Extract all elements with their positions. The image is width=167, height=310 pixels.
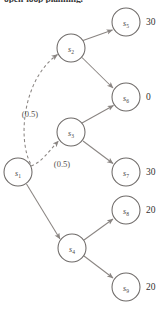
- node-s2[interactable]: s2: [57, 34, 85, 62]
- node-s4[interactable]: s4: [58, 234, 86, 262]
- state-transition-graph: s1 s2 s3 s4 s5 s6: [0, 0, 167, 310]
- edge-s1-to-s4: [27, 184, 61, 239]
- node-s5[interactable]: s5: [112, 8, 140, 36]
- node-s9[interactable]: s9: [112, 273, 140, 301]
- value-label-group: 30 0 30 20 20: [146, 17, 156, 292]
- edge-s3-to-s6: [82, 106, 114, 124]
- edge-s4-to-s9: [84, 256, 113, 278]
- probability-label-s1-to-s3: (0.5): [54, 159, 70, 169]
- node-s6[interactable]: s6: [112, 83, 140, 111]
- value-label-s8: 20: [146, 205, 156, 215]
- open-loop-planning-figure: open-loop planning.: [0, 0, 167, 310]
- node-s7[interactable]: s7: [112, 158, 140, 186]
- value-label-s7: 30: [146, 167, 156, 177]
- probability-label-s1-to-s2: (0.5): [22, 109, 38, 119]
- edge-s4-to-s8: [84, 219, 113, 240]
- node-s8[interactable]: s8: [112, 196, 140, 224]
- value-label-s5: 30: [146, 17, 156, 27]
- edge-s2-to-s6: [82, 58, 113, 89]
- edge-s2-to-s5: [83, 30, 113, 41]
- node-group: s1 s2 s3 s4 s5 s6: [4, 8, 140, 301]
- value-label-s9: 20: [146, 282, 156, 292]
- value-label-s6: 0: [146, 92, 151, 102]
- node-s3[interactable]: s3: [57, 118, 85, 146]
- node-s1[interactable]: s1: [4, 158, 32, 186]
- edge-s3-to-s7: [83, 141, 113, 164]
